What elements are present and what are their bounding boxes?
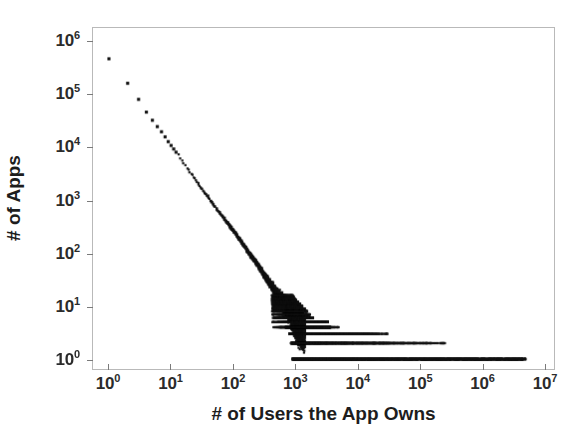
y-tick-mark-6 [87,41,93,42]
x-tick-mark-5 [420,364,421,370]
x-tick-label-2: 102 [221,374,245,394]
x-tick-label-4: 104 [345,374,369,394]
y-tick-label-4: 104 [56,137,80,157]
y-tick-mark-4 [87,147,93,148]
x-tick-mark-4 [358,364,359,370]
x-tick-label-7: 107 [533,374,557,394]
x-tick-label-3: 103 [283,374,307,394]
x-tick-label-0: 100 [96,374,120,394]
figure-container: 100101102103104105106107 100101102103104… [0,0,582,444]
y-tick-mark-2 [87,254,93,255]
x-tick-label-1: 101 [158,374,182,394]
y-tick-label-3: 103 [56,191,80,211]
y-tick-mark-1 [87,307,93,308]
scatter-plot-canvas [93,28,554,369]
x-axis-title: # of Users the App Owns [92,403,555,425]
x-tick-label-6: 106 [470,374,494,394]
x-tick-mark-1 [170,364,171,370]
x-tick-mark-3 [295,364,296,370]
y-tick-label-1: 101 [56,297,80,317]
y-tick-mark-3 [87,201,93,202]
plot-area [92,27,555,370]
y-tick-label-0: 100 [56,350,80,370]
y-tick-mark-0 [87,360,93,361]
y-tick-label-2: 102 [56,244,80,264]
y-tick-mark-5 [87,94,93,95]
y-axis-title: # of Apps [3,155,25,241]
x-tick-mark-7 [545,364,546,370]
y-tick-label-5: 105 [56,84,80,104]
x-tick-mark-2 [233,364,234,370]
y-tick-label-6: 106 [56,31,80,51]
x-tick-label-5: 105 [408,374,432,394]
x-tick-mark-6 [483,364,484,370]
x-tick-mark-0 [108,364,109,370]
